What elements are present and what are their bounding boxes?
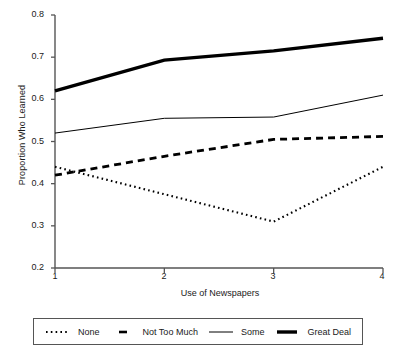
legend-label-none: None (78, 327, 100, 337)
data-series-layer (55, 38, 383, 221)
series-line-great-deal (55, 38, 383, 91)
legend-swatch-solid-thin-icon (208, 329, 234, 335)
plot-area (0, 0, 395, 300)
series-line-some (55, 95, 383, 133)
legend-entry-none[interactable]: None (45, 327, 100, 337)
legend-swatch-dashed-icon (110, 329, 136, 335)
legend-entry-some[interactable]: Some (208, 327, 265, 337)
legend-entry-great-deal[interactable]: Great Deal (274, 327, 351, 337)
legend-entry-not-too-much[interactable]: Not Too Much (110, 327, 198, 337)
legend-label-some: Some (241, 327, 265, 337)
series-line-not-too-much (55, 136, 383, 175)
legend-swatch-dotted-icon (45, 329, 71, 335)
legend-label-not-too-much: Not Too Much (143, 327, 198, 337)
legend: None Not Too Much Some (33, 318, 363, 345)
legend-swatch-solid-thick-icon (274, 329, 300, 335)
series-line-none (55, 167, 383, 222)
chart-figure: Proportion Who Learned 0.8 0.7 0.6 0.5 0… (0, 0, 395, 357)
legend-label-great-deal: Great Deal (307, 327, 351, 337)
x-tick-marks (55, 268, 383, 273)
